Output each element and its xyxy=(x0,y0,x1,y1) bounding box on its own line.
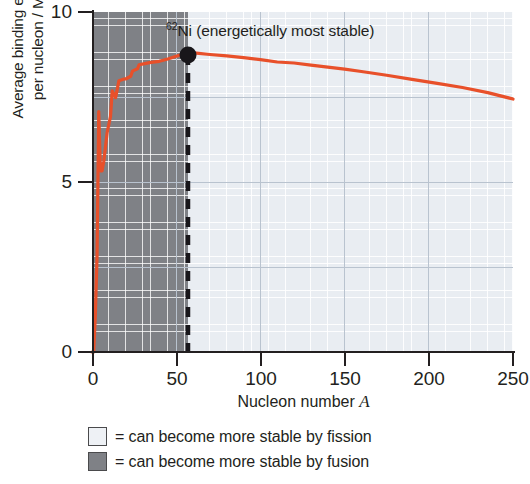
x-label-100: 100 xyxy=(231,368,291,390)
y-label-5: 5 xyxy=(42,171,72,193)
isotope-symbol: Ni xyxy=(177,22,191,39)
x-label-0: 0 xyxy=(63,368,123,390)
x-axis-title-symbol: A xyxy=(359,392,369,411)
x-tick-250 xyxy=(512,353,514,366)
x-label-200: 200 xyxy=(399,368,459,390)
x-axis-line xyxy=(92,351,515,353)
y-axis-title-line-1: Average binding energy xyxy=(8,0,28,119)
x-label-50: 50 xyxy=(147,368,207,390)
isotope-annotation: 62Ni (energetically most stable) xyxy=(166,22,374,40)
x-label-250: 250 xyxy=(483,368,530,390)
binding-energy-chart: Average binding energy per nucleon / MeV xyxy=(0,0,530,484)
legend-label-fission: = can become more stable by fission xyxy=(115,428,372,446)
x-label-150: 150 xyxy=(315,368,375,390)
y-label-10: 10 xyxy=(42,1,72,23)
isotope-mass-number: 62 xyxy=(166,20,177,32)
plot-area xyxy=(92,12,513,352)
isotope-note: (energetically most stable) xyxy=(192,22,374,39)
legend-item-fusion: = can become more stable by fusion xyxy=(88,449,372,474)
legend-item-fission: = can become more stable by fission xyxy=(88,424,372,449)
legend-swatch-fission xyxy=(88,427,107,446)
x-axis-title-text: Nucleon number xyxy=(237,393,359,410)
y-tick-10 xyxy=(78,11,92,13)
y-axis-line xyxy=(92,10,94,354)
y-tick-5 xyxy=(78,181,92,183)
x-axis-title: Nucleon number A xyxy=(92,392,515,412)
x-tick-100 xyxy=(260,353,262,366)
y-label-0: 0 xyxy=(42,341,72,363)
stability-divider xyxy=(92,12,513,352)
legend-label-fusion: = can become more stable by fusion xyxy=(115,453,369,471)
x-tick-0 xyxy=(92,353,94,366)
legend-swatch-fusion xyxy=(88,452,107,471)
legend: = can become more stable by fission = ca… xyxy=(88,424,372,474)
x-tick-200 xyxy=(428,353,430,366)
most-stable-marker xyxy=(180,47,197,64)
x-tick-150 xyxy=(344,353,346,366)
x-tick-50 xyxy=(176,353,178,366)
y-tick-0 xyxy=(78,351,92,353)
